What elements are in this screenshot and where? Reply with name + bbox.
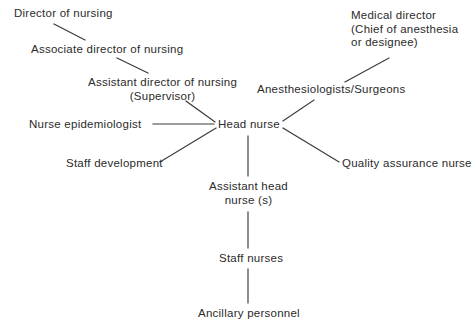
node-assistant-director-of-nursing: Assistant director of nursing(Supervisor… [88, 76, 237, 103]
node-label-line: Staff nurses [219, 252, 283, 266]
node-label-line: Quality assurance nurse [342, 157, 472, 171]
node-associate-director-of-nursing: Associate director of nursing [31, 43, 183, 57]
node-ancillary-personnel: Ancillary personnel [198, 307, 300, 321]
node-label-line: Medical director [351, 9, 458, 23]
node-label-line: Associate director of nursing [31, 43, 183, 57]
connector-head-nurse-to-quality-assurance-nurse [283, 128, 339, 162]
node-label-line: Anesthesiologists/Surgeons [257, 83, 405, 97]
node-label-line: (Chief of anesthesia [351, 23, 458, 37]
node-label-line: Nurse epidemiologist [29, 118, 141, 132]
node-assistant-head-nurses: Assistant headnurse (s) [209, 180, 288, 207]
node-label-line: (Supervisor) [88, 90, 237, 104]
node-staff-development: Staff development [66, 157, 163, 171]
org-chart-diagram: Director of nursingAssociate director of… [0, 0, 476, 333]
node-head-nurse: Head nurse [218, 118, 280, 132]
node-director-of-nursing: Director of nursing [14, 7, 113, 21]
node-nurse-epidemiologist: Nurse epidemiologist [29, 118, 141, 132]
connector-assistant-director-of-nursing-to-head-nurse [186, 101, 215, 122]
node-anesthesiologists-surgeons: Anesthesiologists/Surgeons [257, 83, 405, 97]
node-label-line: or designee) [351, 36, 458, 50]
connector-associate-director-of-nursing-to-assistant-director-of-nursing [117, 58, 148, 73]
node-label-line: Ancillary personnel [198, 307, 300, 321]
connector-director-of-nursing-to-associate-director-of-nursing [54, 24, 85, 40]
connector-staff-development-to-head-nurse [160, 128, 216, 162]
node-label-line: Head nurse [218, 118, 280, 132]
node-label-line: Assistant head [209, 180, 288, 194]
node-staff-nurses: Staff nurses [219, 252, 283, 266]
node-label-line: nurse (s) [209, 194, 288, 208]
node-label-line: Director of nursing [14, 7, 113, 21]
node-label-line: Assistant director of nursing [88, 76, 237, 90]
connector-medical-director-to-anesthesiologists-surgeons [345, 58, 389, 82]
node-label-line: Staff development [66, 157, 163, 171]
node-medical-director: Medical director(Chief of anesthesiaor d… [351, 9, 458, 50]
connector-anesthesiologists-surgeons-to-head-nurse [283, 100, 314, 121]
node-quality-assurance-nurse: Quality assurance nurse [342, 157, 472, 171]
